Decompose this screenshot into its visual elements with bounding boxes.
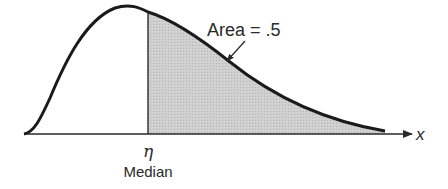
median-symbol: η — [143, 141, 154, 161]
area-pointer-arrow — [227, 41, 245, 61]
x-axis-label: x — [415, 125, 425, 144]
area-label: Area = .5 — [207, 20, 281, 40]
median-label: Median — [123, 163, 172, 180]
median-diagram: Area = .5 x η Median — [0, 0, 448, 189]
